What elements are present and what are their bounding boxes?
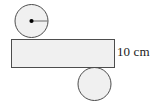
geometry-figure: 10 cm — [0, 0, 166, 108]
top-circle-center-dot — [29, 19, 33, 23]
bar-rectangle — [12, 40, 115, 68]
height-dimension-label: 10 cm — [117, 44, 150, 60]
bottom-circle — [78, 68, 111, 101]
